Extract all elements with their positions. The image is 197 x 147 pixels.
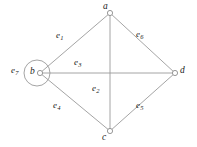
vertex-label-a: a bbox=[103, 2, 108, 12]
edge-label-e1-sub: 1 bbox=[60, 34, 63, 41]
edge-label-e4: e4 bbox=[53, 101, 60, 110]
edge-label-e7: e7 bbox=[11, 66, 18, 75]
vertex-c-marker bbox=[107, 128, 112, 133]
edge-label-e5-sub: 5 bbox=[140, 104, 143, 111]
edge-label-e2: e2 bbox=[92, 84, 99, 93]
vertex-label-d: d bbox=[180, 66, 185, 76]
edge-label-e6: e6 bbox=[136, 30, 143, 39]
edge-label-e7-sub: 7 bbox=[15, 69, 18, 76]
edge-label-e2-sub: 2 bbox=[96, 87, 99, 94]
edge-label-e3-sub: 3 bbox=[78, 61, 81, 68]
vertex-a-marker bbox=[107, 10, 112, 15]
vertex-label-b: b bbox=[30, 67, 35, 77]
edge-label-e1: e1 bbox=[56, 31, 63, 40]
edge-e4-line bbox=[40, 73, 110, 131]
vertex-b-marker bbox=[37, 70, 42, 75]
edge-e6-line bbox=[110, 13, 175, 73]
graph-figure: a b c d e1 e2 e3 e4 e5 e6 e7 bbox=[0, 0, 197, 147]
edge-label-e3: e3 bbox=[74, 58, 81, 67]
edge-lines bbox=[24, 13, 175, 131]
vertex-d-marker bbox=[172, 70, 177, 75]
edge-label-e4-sub: 4 bbox=[57, 104, 60, 111]
vertex-label-c: c bbox=[102, 133, 106, 143]
edge-label-e6-sub: 6 bbox=[140, 33, 143, 40]
edge-label-e5: e5 bbox=[136, 101, 143, 110]
vertex-markers bbox=[37, 10, 177, 133]
